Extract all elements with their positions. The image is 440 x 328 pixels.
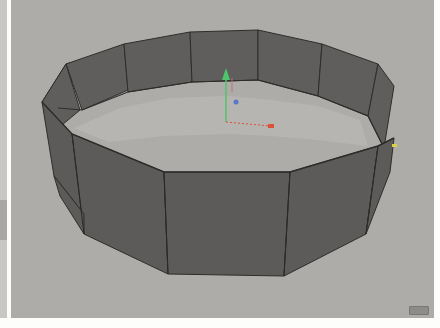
side-panel-strip bbox=[0, 0, 7, 318]
3d-viewport[interactable] bbox=[11, 0, 434, 318]
side-panel-tab[interactable] bbox=[0, 200, 7, 240]
viewport-corner-icon[interactable] bbox=[409, 306, 429, 315]
selection-marker bbox=[392, 144, 397, 147]
tube-model bbox=[11, 0, 434, 318]
